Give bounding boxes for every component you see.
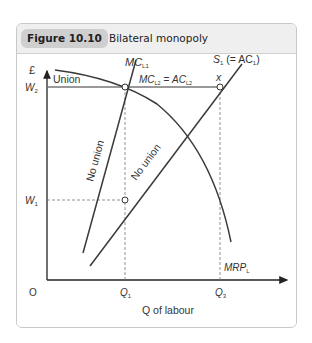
- y-axis-label: £: [29, 64, 35, 76]
- figure-number-badge: Figure 10.10: [21, 29, 108, 48]
- supply-line: [90, 64, 242, 266]
- point-union-equilibrium: [122, 84, 128, 90]
- q1-tick-label: Q1: [120, 287, 132, 299]
- bilateral-monopoly-diagram: £ O Q of labour W2 W1 Q1 Q3 Union MCL1 M…: [17, 54, 296, 327]
- mrp-label: MRPL: [224, 262, 250, 274]
- no-union-mc-label: No union: [83, 139, 106, 183]
- diagram-area: £ O Q of labour W2 W1 Q1 Q3 Union MCL1 M…: [17, 54, 296, 327]
- figure-header: Figure 10.10 Bilateral monopoly: [17, 24, 296, 54]
- point-x: [217, 84, 223, 90]
- mc-l1-label: MCL1: [125, 56, 149, 69]
- q3-tick-label: Q3: [215, 287, 227, 299]
- mc-l2-ac-l2-label: MCL2 = ACL2: [139, 74, 192, 86]
- w1-tick-label: W1: [25, 195, 38, 207]
- x-axis-label: Q of labour: [142, 304, 194, 316]
- point-x-label: x: [215, 71, 222, 83]
- supply-label: S1 (= AC1): [213, 54, 260, 66]
- union-label: Union: [53, 73, 81, 85]
- figure-title: Bilateral monopoly: [109, 29, 208, 48]
- point-no-union: [122, 197, 128, 203]
- figure-frame: Figure 10.10 Bilateral monopoly: [16, 23, 297, 328]
- origin-label: O: [29, 287, 37, 298]
- w2-tick-label: W2: [25, 82, 38, 94]
